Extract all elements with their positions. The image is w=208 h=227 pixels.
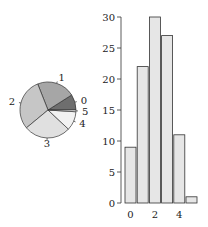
y-tick-label: 5 xyxy=(109,167,115,178)
pie-label: 4 xyxy=(79,118,85,129)
y-tick-label: 15 xyxy=(102,105,115,116)
pie-label: 1 xyxy=(59,72,65,83)
bar-3 xyxy=(162,36,173,203)
y-tick-label: 25 xyxy=(102,43,115,54)
y-tick-label: 10 xyxy=(102,136,115,147)
bar-chart: 051015202530024 xyxy=(102,12,197,221)
bar-0 xyxy=(125,147,136,203)
x-tick-label: 0 xyxy=(127,209,133,220)
y-tick-label: 20 xyxy=(102,74,115,85)
bar-2 xyxy=(149,17,160,203)
x-tick-label: 2 xyxy=(152,209,158,220)
pie-label: 5 xyxy=(82,106,88,117)
bar-1 xyxy=(137,67,148,203)
y-tick-label: 30 xyxy=(102,12,115,23)
x-tick-label: 4 xyxy=(176,209,182,220)
pie-label: 0 xyxy=(81,95,87,106)
pie-label: 2 xyxy=(9,96,15,107)
pie-label: 3 xyxy=(44,138,50,149)
chart-canvas: 012345 051015202530024 xyxy=(0,0,208,227)
y-tick-label: 0 xyxy=(109,198,115,209)
pie-chart: 012345 xyxy=(9,72,89,149)
bar-4 xyxy=(174,135,185,203)
bar-5 xyxy=(186,197,197,203)
